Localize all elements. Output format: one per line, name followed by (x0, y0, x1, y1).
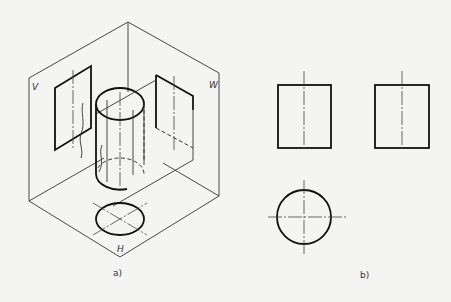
v-plane-label: V (32, 82, 39, 92)
cylinder-projection-diagram: V W H a) b) (0, 0, 451, 302)
side-view (375, 71, 429, 150)
front-view (278, 71, 331, 150)
h-plane-projection (93, 203, 147, 235)
figure-b-caption: b) (360, 270, 369, 280)
figure-a-caption: a) (113, 268, 122, 278)
h-plane-label: H (117, 244, 124, 254)
w-plane-projection (113, 75, 193, 206)
v-plane-projection (55, 66, 91, 150)
top-view (268, 180, 347, 254)
w-plane-label: W (209, 80, 219, 90)
